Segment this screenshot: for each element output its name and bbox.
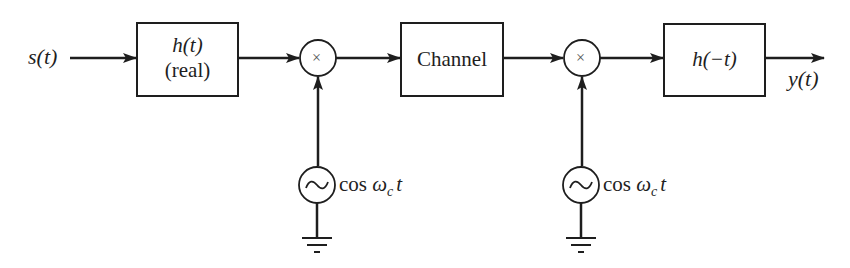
tx-filter-note: (real) <box>137 58 238 83</box>
osc2-cos: cos <box>603 172 636 196</box>
oscillator-2-label: cos ωct <box>603 174 666 199</box>
rx-filter-label: h(−t) <box>664 47 765 72</box>
osc2-sub: c <box>651 184 657 199</box>
tx-filter-label: h(t) (real) <box>137 33 238 83</box>
block-diagram: s(t) h(t) (real) × Channel × h(−t) y(t) … <box>0 0 850 268</box>
channel-label: Channel <box>401 47 503 72</box>
sine-icon <box>306 182 328 189</box>
osc2-t: t <box>660 172 666 196</box>
osc1-cos: cos <box>339 172 372 196</box>
oscillator-1-label: cos ωct <box>339 174 402 199</box>
mixer-2-symbol: × <box>576 50 585 66</box>
sine-icon <box>570 182 592 189</box>
tx-filter-name: h(t) <box>137 33 238 58</box>
osc1-omega: ω <box>372 172 387 196</box>
osc1-sub: c <box>387 184 393 199</box>
osc1-t: t <box>396 172 402 196</box>
mixer-1-symbol: × <box>312 50 321 66</box>
output-signal-label: y(t) <box>788 68 819 90</box>
input-signal-label: s(t) <box>28 46 57 68</box>
diagram-graphics <box>0 0 850 268</box>
osc2-omega: ω <box>636 172 651 196</box>
